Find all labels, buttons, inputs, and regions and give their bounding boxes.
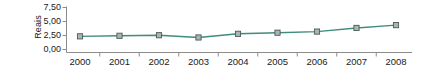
x-tick-label-2004: 2004 bbox=[218, 56, 258, 67]
x-axis-tick-labels: 200020012002200320042005200620072008 bbox=[0, 0, 430, 79]
x-tick-label-2008: 2008 bbox=[376, 56, 416, 67]
x-tick-label-2001: 2001 bbox=[100, 56, 140, 67]
x-tick-label-2002: 2002 bbox=[139, 56, 179, 67]
line-chart: Reais 7,50 5,00 2,50 0,00 20002001200220… bbox=[0, 0, 430, 79]
x-tick-label-2000: 2000 bbox=[60, 56, 100, 67]
x-tick-label-2003: 2003 bbox=[179, 56, 219, 67]
x-tick-label-2006: 2006 bbox=[297, 56, 337, 67]
x-tick-label-2007: 2007 bbox=[337, 56, 377, 67]
x-tick-label-2005: 2005 bbox=[258, 56, 298, 67]
